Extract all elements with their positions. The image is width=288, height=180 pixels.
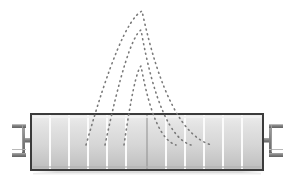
beam-segment-divider: [222, 115, 224, 169]
beam-segment-divider: [68, 115, 70, 169]
beam-diagram-svg: [0, 0, 288, 180]
beam-center-divider: [147, 115, 148, 169]
beam-segment-divider: [241, 115, 243, 169]
beam-segment-divider: [165, 115, 167, 169]
figure-root: [0, 0, 288, 180]
beam-segment-divider: [125, 115, 127, 169]
segmented-beam-body: [31, 114, 263, 170]
beam-segment-divider: [87, 115, 89, 169]
beam-segment-divider: [106, 115, 108, 169]
beam-segment-divider: [49, 115, 51, 169]
